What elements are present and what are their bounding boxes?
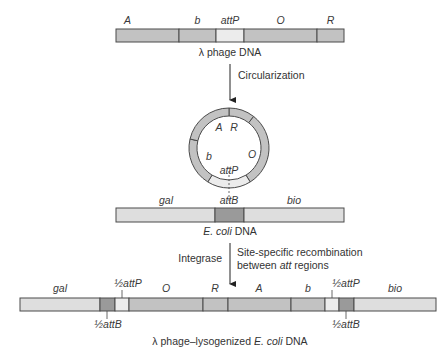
lysogen-segment-bio <box>354 298 436 311</box>
phage-dna-bar <box>116 29 344 42</box>
lysogen-top-label-a: A <box>254 282 262 294</box>
ecoli-label-attb: attB <box>220 194 239 206</box>
lysogen-segment-b <box>291 298 325 311</box>
ecoli-segment-bio <box>244 208 344 222</box>
lysogen-segment-half-attp <box>325 298 339 311</box>
lysogen-top-label-half-attp: ½attP <box>332 277 359 289</box>
lysogen-top-label-b: b <box>305 282 311 294</box>
circle-label-b: b <box>206 150 212 162</box>
lysogen-segment-a <box>228 298 291 311</box>
circle-label-attp: attP <box>220 164 239 176</box>
recombination-label-line1: Site-specific recombination <box>237 246 363 258</box>
lysogen-top-labels: gal½attPORAb½attPbio <box>53 277 402 298</box>
lysogen-top-label-o: O <box>162 282 170 294</box>
ecoli-dna-bar <box>116 208 344 222</box>
phage-segment-a <box>116 29 179 42</box>
ecoli-segment-gal <box>116 208 215 222</box>
integrase-label: Integrase <box>178 252 222 264</box>
phage-label-o: O <box>276 14 284 26</box>
lysogen-top-label-gal: gal <box>53 282 68 294</box>
phage-segment-r <box>317 29 344 42</box>
lysogen-top-label-bio: bio <box>388 282 402 294</box>
ecoli-segment-attb <box>215 208 244 222</box>
phage-label-r: R <box>327 14 335 26</box>
circle-label-r: R <box>230 121 238 133</box>
lysogen-segment-half-attb <box>339 298 354 311</box>
circle-segment-attp <box>208 175 250 188</box>
recombination-label-line2: between att regions <box>237 259 329 271</box>
phage-segment-b <box>179 29 216 42</box>
lysogen-segment-r <box>203 298 228 311</box>
ecoli-label-gal: gal <box>159 194 174 206</box>
lysogen-segment-half-attb <box>100 298 115 311</box>
ecoli-label-bio: bio <box>287 194 301 206</box>
ecoli-dna-caption: E. coli DNA <box>203 225 257 237</box>
lysogen-top-label-r: R <box>211 282 219 294</box>
lysogen-segment-half-attp <box>115 298 129 311</box>
phage-dna-caption: λ phage DNA <box>199 46 261 58</box>
phage-segment-o <box>244 29 317 42</box>
lysogen-bottom-label-half-attb: ½attB <box>332 318 359 330</box>
lysogen-top-label-half-attp: ½attP <box>114 277 141 289</box>
phage-segment-attp <box>216 29 244 42</box>
circularization-label: Circularization <box>238 69 305 81</box>
circle-label-a: A <box>214 121 222 133</box>
ecoli-gene-labels: galattBbio <box>159 194 301 206</box>
lysogen-bottom-labels: ½attB½attB <box>94 311 359 330</box>
circle-gene-labels: ARObattP <box>206 121 256 176</box>
phage-label-a: A <box>123 14 131 26</box>
phage-label-attp: attP <box>221 14 240 26</box>
circle-segment-a <box>190 108 229 141</box>
lambda-integration-diagram: AbattPOR λ phage DNA Circularization ARO… <box>0 0 447 357</box>
lysogen-segment-o <box>129 298 203 311</box>
phage-label-b: b <box>195 14 201 26</box>
lysogen-bottom-label-half-attb: ½attB <box>94 318 121 330</box>
lysogen-dna-caption: λ phage–lysogenized E. coli DNA <box>152 335 307 347</box>
circle-label-o: O <box>248 148 256 160</box>
lysogen-segment-gal <box>20 298 100 311</box>
phage-gene-labels: AbattPOR <box>123 14 335 26</box>
lysogen-dna-bar <box>20 298 436 311</box>
